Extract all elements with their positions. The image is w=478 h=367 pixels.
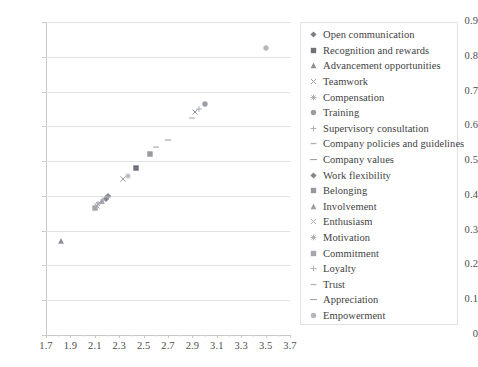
legend-item-label: Supervisory consultation (320, 123, 429, 134)
x-tick-mark (217, 335, 218, 338)
x-tick-minor (180, 335, 181, 337)
x-tick-mark (70, 335, 71, 338)
x-tick-mark (290, 335, 291, 338)
data-point (201, 100, 208, 107)
legend-item-label: Empowerment (320, 310, 385, 321)
legend-marker-icon (306, 121, 320, 135)
gridline (46, 22, 290, 23)
legend-item[interactable]: Teamwork (301, 74, 457, 90)
data-point (104, 194, 111, 201)
legend-item-label: Belonging (320, 185, 367, 196)
legend-item[interactable]: Supervisory consultation (301, 121, 457, 137)
legend-item[interactable]: Enthusiasm (301, 214, 457, 230)
legend-item[interactable]: Company policies and guidelines (301, 136, 457, 152)
data-point (120, 175, 127, 182)
legend-item[interactable]: Empowerment (301, 308, 457, 324)
x-tick-minor (253, 335, 254, 337)
legend-marker-icon (306, 75, 320, 89)
y-tick-mark (42, 300, 46, 301)
x-tick-mark (46, 335, 47, 338)
data-point (96, 199, 103, 206)
legend-item-label: Advancement opportunities (320, 60, 441, 71)
legend-item[interactable]: Open communication (301, 27, 457, 43)
legend-item-label: Training (320, 107, 359, 118)
x-tick-minor (58, 335, 59, 337)
x-tick-mark (168, 335, 169, 338)
y-tick-mark (42, 231, 46, 232)
x-tick-minor (107, 335, 108, 337)
legend-item-label: Teamwork (320, 76, 368, 87)
x-tick-mark (192, 335, 193, 338)
x-tick-mark (241, 335, 242, 338)
scatter-chart: 00.10.20.30.40.50.60.70.80.9 1.71.92.12.… (0, 0, 478, 367)
legend-marker-icon (306, 246, 320, 260)
gridline (46, 265, 290, 266)
legend-item-label: Recognition and rewards (320, 45, 429, 56)
legend-marker-icon (306, 277, 320, 291)
data-point (133, 165, 140, 172)
gridline (46, 231, 290, 232)
legend-item-label: Commitment (320, 248, 379, 259)
legend-marker-icon (306, 308, 320, 322)
legend-item-label: Open communication (320, 29, 415, 40)
x-tick-minor (229, 335, 230, 337)
chart-legend: Open communicationRecognition and reward… (300, 22, 458, 325)
legend-item-label: Company values (320, 154, 394, 165)
gridline (46, 57, 290, 58)
legend-item-label: Company policies and guidelines (320, 138, 464, 149)
y-tick-mark (42, 22, 46, 23)
x-tick-minor (156, 335, 157, 337)
x-tick-mark (119, 335, 120, 338)
data-point (146, 151, 153, 158)
legend-marker-icon (306, 59, 320, 73)
legend-marker-icon (306, 90, 320, 104)
y-axis-line (46, 22, 47, 335)
legend-item[interactable]: Advancement opportunities (301, 58, 457, 74)
legend-marker-icon (306, 184, 320, 198)
gridline (46, 300, 290, 301)
data-point (192, 109, 199, 116)
y-tick-mark (42, 265, 46, 266)
x-tick-minor (83, 335, 84, 337)
legend-item-label: Trust (320, 279, 345, 290)
legend-item-label: Enthusiasm (320, 216, 373, 227)
y-tick-mark (42, 92, 46, 93)
legend-item[interactable]: Commitment (301, 245, 457, 261)
y-tick-mark (42, 161, 46, 162)
gridline (46, 161, 290, 162)
legend-marker-icon (306, 106, 320, 120)
legend-item[interactable]: Work flexibility (301, 167, 457, 183)
x-tick-mark (95, 335, 96, 338)
legend-marker-icon (306, 168, 320, 182)
legend-marker-icon (306, 43, 320, 57)
legend-marker-icon (306, 199, 320, 213)
legend-item[interactable]: Loyalty (301, 261, 457, 277)
legend-item-label: Work flexibility (320, 170, 391, 181)
legend-marker-icon (306, 137, 320, 151)
legend-item-label: Loyalty (320, 263, 356, 274)
legend-item-label: Involvement (320, 201, 377, 212)
legend-marker-icon (306, 28, 320, 42)
legend-item-label: Motivation (320, 232, 370, 243)
y-tick-mark (42, 196, 46, 197)
legend-item[interactable]: Appreciation (301, 292, 457, 308)
legend-item[interactable]: Motivation (301, 230, 457, 246)
legend-item[interactable]: Belonging (301, 183, 457, 199)
x-tick-minor (205, 335, 206, 337)
legend-item[interactable]: Company values (301, 152, 457, 168)
legend-item[interactable]: Recognition and rewards (301, 43, 457, 59)
legend-item[interactable]: Training (301, 105, 457, 121)
legend-item-label: Compensation (320, 92, 384, 103)
data-point (152, 144, 159, 151)
legend-marker-icon (306, 153, 320, 167)
legend-item[interactable]: Compensation (301, 89, 457, 105)
gridline (46, 92, 290, 93)
legend-item[interactable]: Trust (301, 277, 457, 293)
gridline (46, 196, 290, 197)
x-tick-mark (144, 335, 145, 338)
legend-item[interactable]: Involvement (301, 199, 457, 215)
gridline (46, 126, 290, 127)
data-point (57, 238, 64, 245)
y-tick-mark (42, 57, 46, 58)
legend-marker-icon (306, 293, 320, 307)
